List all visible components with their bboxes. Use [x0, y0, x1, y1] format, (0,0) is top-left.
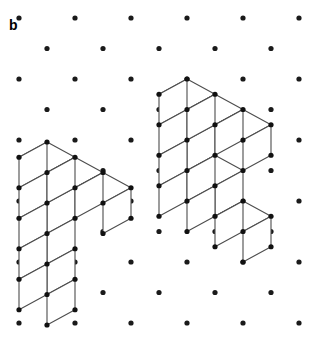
lattice-dot: [240, 320, 245, 325]
lattice-dot: [72, 198, 77, 203]
lattice-dot: [16, 320, 21, 325]
lattice-dot: [240, 198, 245, 203]
lattice-dot: [156, 229, 161, 234]
lattice-dot: [128, 137, 133, 142]
lattice-dot: [128, 320, 133, 325]
lattice-dot: [240, 15, 245, 20]
lattice-dot: [184, 259, 189, 264]
lattice-dot: [212, 46, 217, 51]
lattice-dot: [16, 259, 21, 264]
figure-panel-b: b: [0, 0, 317, 346]
lattice-dot: [268, 107, 273, 112]
lattice-dot: [240, 137, 245, 142]
lattice-dot: [212, 107, 217, 112]
lattice-dot: [240, 259, 245, 264]
lattice-dot: [156, 46, 161, 51]
lattice-dot: [100, 229, 105, 234]
lattice-dot: [44, 107, 49, 112]
lattice-dot: [128, 198, 133, 203]
lattice-dot: [72, 76, 77, 81]
lattice-dot: [128, 259, 133, 264]
lattice-dot: [296, 76, 301, 81]
lattice-dot: [212, 168, 217, 173]
lattice-dot: [128, 76, 133, 81]
dot-lattice: [0, 0, 317, 346]
lattice-dot: [16, 137, 21, 142]
lattice-dot: [184, 15, 189, 20]
lattice-dot: [16, 76, 21, 81]
lattice-dot: [212, 290, 217, 295]
lattice-dot: [268, 168, 273, 173]
lattice-dot: [72, 137, 77, 142]
lattice-dot: [184, 137, 189, 142]
lattice-dot: [184, 320, 189, 325]
lattice-dot: [296, 259, 301, 264]
lattice-dot: [44, 46, 49, 51]
lattice-dot: [128, 15, 133, 20]
lattice-dot: [296, 198, 301, 203]
lattice-dot: [44, 290, 49, 295]
lattice-dot: [296, 15, 301, 20]
lattice-dot: [72, 259, 77, 264]
lattice-dot: [72, 15, 77, 20]
lattice-dot: [156, 168, 161, 173]
lattice-dot: [72, 320, 77, 325]
lattice-dot: [100, 46, 105, 51]
lattice-dot: [44, 168, 49, 173]
lattice-dot: [212, 229, 217, 234]
panel-label: b: [9, 18, 18, 32]
lattice-dot: [240, 76, 245, 81]
lattice-dot: [100, 107, 105, 112]
lattice-dot: [296, 137, 301, 142]
lattice-dot: [268, 290, 273, 295]
lattice-dot: [296, 320, 301, 325]
lattice-dot: [268, 229, 273, 234]
lattice-dot: [268, 46, 273, 51]
lattice-dot: [156, 107, 161, 112]
lattice-dot: [184, 198, 189, 203]
lattice-dot: [184, 76, 189, 81]
lattice-dot: [156, 290, 161, 295]
lattice-dot: [16, 198, 21, 203]
lattice-dot: [100, 290, 105, 295]
lattice-dot: [44, 229, 49, 234]
lattice-dot: [100, 168, 105, 173]
